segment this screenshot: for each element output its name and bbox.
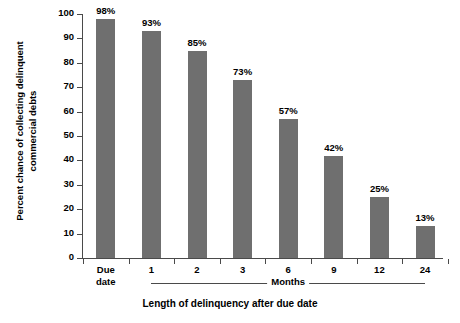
x-axis-category-label-line: 6 bbox=[286, 264, 291, 276]
y-axis-tick-label: 70 bbox=[63, 80, 74, 91]
y-axis-tick: 40 bbox=[77, 160, 82, 161]
x-axis-tick bbox=[174, 259, 175, 264]
bar: 25% bbox=[370, 197, 389, 258]
plot-area: 0102030405060708090100 98%93%85%73%57%42… bbox=[82, 14, 443, 258]
y-axis-tick: 30 bbox=[77, 185, 82, 186]
x-axis-tick bbox=[129, 259, 130, 264]
bar: 73% bbox=[233, 80, 252, 258]
x-axis-category-label: 2 bbox=[194, 264, 199, 276]
x-axis-category-label-line: date bbox=[96, 276, 116, 288]
x-axis-category-label-line: 3 bbox=[240, 264, 245, 276]
y-axis-tick-label: 90 bbox=[63, 31, 74, 42]
bar: 13% bbox=[416, 226, 435, 258]
bar: 93% bbox=[142, 31, 161, 258]
x-axis-tick bbox=[357, 259, 358, 264]
x-axis-category-label-line: 9 bbox=[331, 264, 336, 276]
x-axis-category-label-line: 12 bbox=[374, 264, 385, 276]
y-axis-line bbox=[82, 14, 83, 259]
y-axis-tick: 80 bbox=[77, 63, 82, 64]
y-axis-tick-label: 0 bbox=[69, 251, 74, 262]
y-axis-tick: 50 bbox=[77, 136, 82, 137]
x-axis-category-label: 9 bbox=[331, 264, 336, 276]
bar-value-label: 57% bbox=[279, 105, 298, 116]
bar-value-label: 85% bbox=[187, 37, 206, 48]
x-axis-category-label-line: Due bbox=[96, 264, 116, 276]
y-axis-tick: 100 bbox=[77, 14, 82, 15]
bar-value-label: 42% bbox=[324, 142, 343, 153]
y-axis-tick: 70 bbox=[77, 87, 82, 88]
bar-value-label: 25% bbox=[370, 183, 389, 194]
x-axis-category-label: Duedate bbox=[96, 264, 116, 287]
x-axis-tick bbox=[265, 259, 266, 264]
bar-chart: Percent chance of collecting delinquent … bbox=[0, 0, 460, 323]
y-axis-tick-label: 80 bbox=[63, 56, 74, 67]
y-axis-title-line-1: Percent chance of collecting delinquent bbox=[13, 41, 26, 220]
bar-value-label: 93% bbox=[142, 17, 161, 28]
bar: 98% bbox=[96, 19, 115, 258]
x-axis-tick bbox=[402, 259, 403, 264]
x-axis-category-label: 3 bbox=[240, 264, 245, 276]
y-axis-tick-label: 60 bbox=[63, 105, 74, 116]
y-axis-tick: 90 bbox=[77, 38, 82, 39]
x-axis-category-label-line: 1 bbox=[149, 264, 154, 276]
y-axis-tick: 20 bbox=[77, 209, 82, 210]
x-axis-category-label: 1 bbox=[149, 264, 154, 276]
x-axis-line bbox=[82, 258, 443, 259]
y-axis-tick: 0 bbox=[77, 258, 82, 259]
y-axis-tick: 60 bbox=[77, 112, 82, 113]
y-axis-title: Percent chance of collecting delinquent … bbox=[0, 0, 52, 262]
group-bracket-label: Months bbox=[267, 276, 309, 287]
x-axis-category-label: 6 bbox=[286, 264, 291, 276]
y-axis-tick-label: 40 bbox=[63, 153, 74, 164]
x-axis-title: Length of delinquency after due date bbox=[0, 298, 460, 309]
bar-value-label: 13% bbox=[415, 212, 434, 223]
bar: 42% bbox=[324, 156, 343, 258]
x-axis-group-bracket: Months bbox=[151, 283, 425, 284]
y-axis-title-line-2: commercial debts bbox=[26, 41, 39, 220]
bar-value-label: 98% bbox=[96, 5, 115, 16]
y-axis-tick-label: 10 bbox=[63, 227, 74, 238]
x-axis-tick bbox=[448, 259, 449, 264]
y-axis-tick-label: 30 bbox=[63, 178, 74, 189]
x-axis-category-label: 24 bbox=[420, 264, 431, 276]
y-axis-tick-label: 100 bbox=[58, 7, 74, 18]
y-axis-tick: 10 bbox=[77, 234, 82, 235]
x-axis-category-label-line: 2 bbox=[194, 264, 199, 276]
x-axis-category-label-line: 24 bbox=[420, 264, 431, 276]
x-axis-tick bbox=[220, 259, 221, 264]
bar: 85% bbox=[188, 51, 207, 258]
bar: 57% bbox=[279, 119, 298, 258]
y-axis-tick-label: 50 bbox=[63, 129, 74, 140]
bar-value-label: 73% bbox=[233, 66, 252, 77]
x-axis-tick bbox=[311, 259, 312, 264]
x-axis-tick bbox=[83, 259, 84, 264]
y-axis-tick-label: 20 bbox=[63, 202, 74, 213]
x-axis-category-label: 12 bbox=[374, 264, 385, 276]
